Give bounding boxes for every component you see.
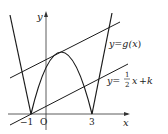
svg-text:x: x (132, 75, 138, 86)
upper-line (10, 22, 120, 78)
svg-text:2: 2 (125, 81, 129, 89)
x-axis (8, 112, 130, 116)
tick-label-neg1: −1 (20, 117, 33, 127)
svg-text:+k: +k (139, 75, 153, 86)
x-axis-label: x (123, 117, 129, 128)
y-axis-arrow-icon (44, 11, 48, 17)
line-label: y= 1 2 x +k (106, 71, 153, 89)
y-axis-label: y (36, 11, 43, 22)
svg-text:y=: y= (106, 75, 120, 86)
origin-label: O (40, 117, 47, 127)
lower-line (10, 64, 128, 125)
x-axis-arrow-icon (124, 112, 130, 116)
svg-text:1: 1 (125, 71, 129, 79)
graph-figure: y x O −1 3 y=g(x) y= 1 2 x +k (0, 0, 168, 134)
tick-label-3: 3 (89, 117, 95, 127)
svg-text:y=g(x): y=g(x) (108, 38, 141, 49)
curve-label: y=g(x) (108, 38, 141, 49)
